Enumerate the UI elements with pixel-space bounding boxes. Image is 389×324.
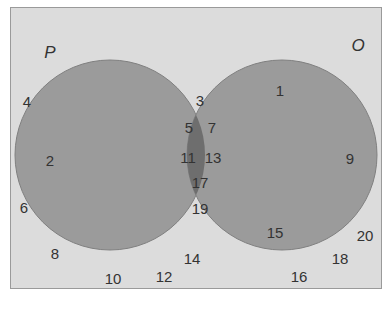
element-2: 2 [46, 152, 54, 169]
element-6: 6 [20, 199, 28, 216]
element-7: 7 [208, 119, 216, 136]
element-19: 19 [192, 200, 209, 217]
element-18: 18 [332, 250, 349, 267]
circle-p [15, 60, 205, 250]
element-8: 8 [51, 245, 59, 262]
element-5: 5 [185, 119, 193, 136]
element-14: 14 [184, 250, 201, 267]
element-20: 20 [357, 227, 374, 244]
element-1: 1 [276, 82, 284, 99]
element-3: 3 [196, 92, 204, 109]
element-12: 12 [156, 268, 173, 285]
element-9: 9 [346, 150, 354, 167]
element-11: 11 [180, 149, 196, 166]
set-label-o: O [351, 36, 364, 56]
element-16: 16 [291, 268, 308, 285]
element-13: 13 [205, 149, 222, 166]
element-15: 15 [267, 224, 284, 241]
set-label-p: P [44, 43, 55, 63]
element-17: 17 [192, 174, 209, 191]
element-4: 4 [23, 93, 31, 110]
element-10: 10 [105, 270, 122, 287]
